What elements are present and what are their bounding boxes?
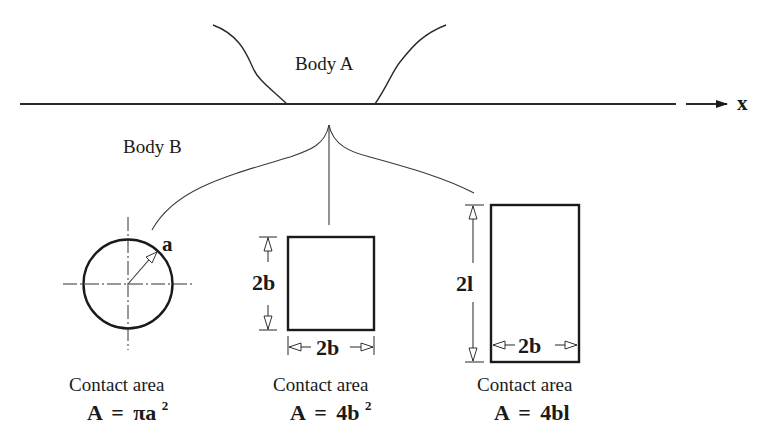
connector-to-rectangle (329, 125, 474, 193)
square-contact-shape: 2b 2b (252, 237, 374, 360)
body-b-label: Body B (123, 136, 182, 157)
formula-lhs: A (494, 400, 510, 425)
formula-eq: = (518, 400, 531, 425)
formula-lhs: A (290, 400, 306, 425)
rectangle-width-label: 2b (518, 333, 541, 358)
formula-rhs: 4bl (540, 400, 569, 425)
formula-eq: = (314, 400, 327, 425)
formula-lhs: A (87, 400, 103, 425)
rectangle-contact-shape: 2l 2b (456, 205, 579, 362)
circle-caption: Contact area (69, 374, 165, 395)
rectangle-height-label: 2l (456, 271, 473, 296)
contact-area-diagram: Body A x Body B a 2b 2b (0, 0, 765, 445)
body-a-left-profile (213, 25, 287, 104)
rectangle-caption: Contact area (477, 374, 573, 395)
square-height-label: 2b (252, 270, 275, 295)
formula-sup: 2 (365, 398, 372, 413)
square-caption: Contact area (273, 374, 369, 395)
radius-label: a (162, 232, 173, 256)
body-a-right-profile (375, 25, 446, 104)
body-a-label: Body A (295, 53, 354, 74)
square-formula: A = 4b 2 (290, 398, 371, 425)
formula-sup: 2 (162, 398, 169, 413)
circle-formula: A = πa 2 (87, 398, 168, 425)
rectangle-formula: A = 4bl (494, 400, 570, 425)
square-width-label: 2b (316, 335, 339, 360)
circle-contact-shape: a (63, 217, 193, 350)
x-axis-label: x (737, 91, 748, 115)
square-outline (288, 237, 374, 330)
formula-rhs: 4b (336, 400, 359, 425)
formula-eq: = (111, 400, 124, 425)
formula-rhs: πa (133, 400, 156, 425)
